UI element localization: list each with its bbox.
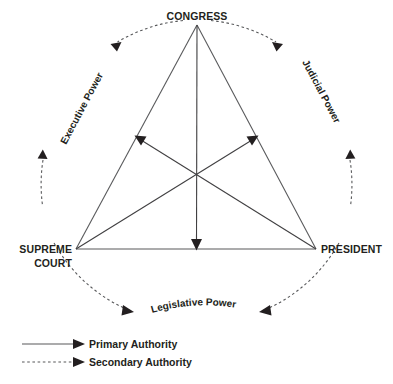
legend-secondary-authority-arrowhead: [73, 357, 85, 367]
legend-primary-authority-arrowhead: [73, 339, 85, 349]
median-congress-to-base: [197, 25, 198, 243]
arc-legislative-power: Legislative Power: [54, 243, 339, 316]
arc-legislative-power-arrowhead-right: [259, 305, 272, 316]
arc-executive-power: Executive Power: [38, 21, 183, 207]
arc-executive-power-arrowhead-top: [111, 42, 122, 52]
arc-judicial-power-upper-segment: [211, 21, 276, 43]
legend-item-primary-authority: Primary Authority: [22, 338, 177, 350]
legend-label-secondary-authority: Secondary Authority: [89, 356, 192, 368]
arc-label-executive-power: Executive Power: [58, 71, 105, 146]
arc-label-judicial-power: Judicial Power: [300, 58, 343, 125]
arc-executive-power-arrowhead-bottom: [38, 150, 48, 160]
arc-label-legislative-power-text: Legislative Power: [150, 296, 237, 315]
legend: Primary Authority Secondary Authority: [22, 338, 192, 368]
median-president-arrowhead: [135, 136, 147, 146]
vertex-label-president: PRESIDENT: [321, 243, 382, 255]
primary-authority-arrows: [76, 25, 316, 251]
arc-judicial-power-lower-segment: [350, 160, 352, 206]
vertex-label-supreme-court-line1: SUPREME: [19, 243, 72, 255]
median-president-to-congress-supreme-court-side: [141, 140, 316, 249]
vertex-label-congress: CONGRESS: [167, 10, 228, 22]
arc-executive-power-upper-segment: [118, 21, 184, 43]
arc-label-legislative-power: Legislative Power: [150, 296, 237, 315]
legend-label-primary-authority: Primary Authority: [89, 338, 177, 350]
legend-item-secondary-authority: Secondary Authority: [22, 356, 192, 368]
arc-judicial-power: Judicial Power: [211, 21, 355, 207]
median-supreme-court-arrowhead: [247, 136, 259, 146]
arc-judicial-power-arrowhead-bottom: [345, 150, 355, 160]
triangle-sides: [76, 25, 316, 249]
arc-legislative-power-arrowhead-left: [122, 305, 135, 316]
diagram-canvas: Executive Power Judicial Power Legislati…: [0, 0, 393, 384]
median-supreme-court-to-congress-president-side: [76, 140, 252, 249]
vertex-label-supreme-court-line2: COURT: [34, 257, 72, 269]
arc-judicial-power-arrowhead-top: [272, 42, 283, 52]
separation-of-powers-diagram: Executive Power Judicial Power Legislati…: [0, 0, 393, 384]
arc-executive-power-lower-segment: [41, 160, 43, 206]
